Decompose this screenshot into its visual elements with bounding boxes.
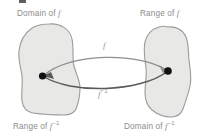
left-point [39, 72, 46, 79]
label-domain-of-f-symbol: f [58, 8, 61, 18]
inverse-function-diagram: Domain of f Range of f Range of f−1 Doma… [0, 0, 209, 140]
label-range-of-f-inverse-exponent: −1 [52, 120, 59, 126]
label-domain-of-f: Domain of f [17, 9, 61, 18]
label-range-of-f-text: Range of [140, 9, 177, 18]
label-domain-of-f-text: Domain of [17, 9, 58, 18]
label-domain-of-f-inverse-exponent: −1 [168, 120, 175, 126]
label-domain-of-f-inverse-text: Domain of [124, 122, 165, 131]
diagram-canvas [0, 0, 209, 140]
label-range-of-f-inverse: Range of f−1 [13, 122, 60, 131]
label-range-of-f: Range of f [140, 9, 179, 18]
label-mapping-f-symbol: f [103, 40, 106, 50]
right-point [164, 67, 172, 75]
label-range-of-f-symbol: f [177, 8, 180, 18]
label-domain-of-f-inverse: Domain of f−1 [124, 122, 175, 131]
label-range-of-f-inverse-text: Range of [13, 122, 50, 131]
left-set-shape [19, 24, 80, 115]
label-mapping-f-inverse: f−1 [98, 90, 108, 99]
label-mapping-f-inverse-exponent: −1 [101, 87, 108, 94]
label-mapping-f: f [103, 41, 106, 50]
